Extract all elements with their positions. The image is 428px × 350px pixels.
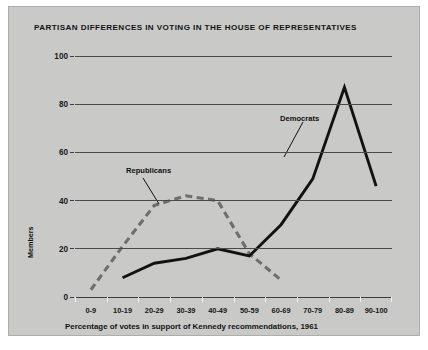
y-tick-label-0: 0 bbox=[63, 293, 68, 302]
y-tick-label-20: 20 bbox=[59, 244, 68, 253]
x-tick-mark-2 bbox=[138, 297, 139, 302]
x-axis-title: Percentage of votes in support of Kenned… bbox=[65, 322, 318, 331]
y-tick-mark-40 bbox=[70, 200, 74, 201]
gridline-80 bbox=[75, 104, 392, 105]
y-tick-mark-60 bbox=[70, 152, 74, 153]
x-tick-mark-3 bbox=[170, 297, 171, 302]
x-tick-label-30-39: 30-39 bbox=[176, 306, 195, 315]
x-tick-label-50-59: 50-59 bbox=[240, 306, 259, 315]
series-label-democrats: Democrats bbox=[280, 114, 319, 123]
x-tick-label-60-69: 60-69 bbox=[272, 306, 291, 315]
y-tick-mark-80 bbox=[70, 104, 74, 105]
gridline-60 bbox=[75, 152, 392, 153]
y-tick-label-60: 60 bbox=[59, 148, 68, 157]
x-tick-mark-4 bbox=[202, 297, 203, 302]
x-tick-mark-6 bbox=[265, 297, 266, 302]
chart-plate: PARTISAN DIFFERENCES IN VOTING IN THE HO… bbox=[8, 6, 420, 336]
y-tick-label-100: 100 bbox=[54, 52, 68, 61]
x-tick-label-20-29: 20-29 bbox=[145, 306, 164, 315]
y-tick-label-80: 80 bbox=[59, 100, 68, 109]
x-tick-mark-0 bbox=[75, 297, 76, 302]
series-lines bbox=[75, 56, 392, 297]
x-tick-label-10-19: 10-19 bbox=[113, 306, 132, 315]
y-tick-mark-100 bbox=[70, 56, 74, 57]
x-tick-label-90-100: 90-100 bbox=[365, 306, 388, 315]
x-tick-mark-end bbox=[391, 297, 392, 302]
y-tick-label-40: 40 bbox=[59, 196, 68, 205]
x-tick-mark-7 bbox=[297, 297, 298, 302]
x-tick-mark-1 bbox=[107, 297, 108, 302]
series-line-republicans bbox=[91, 196, 281, 290]
y-tick-mark-0 bbox=[70, 297, 74, 298]
gridline-20 bbox=[75, 248, 392, 249]
series-label-republicans: Republicans bbox=[126, 166, 171, 175]
gridline-40 bbox=[75, 200, 392, 201]
chart-title: PARTISAN DIFFERENCES IN VOTING IN THE HO… bbox=[34, 23, 357, 32]
plot-area: 0204060801000-910-1920-2930-3940-4950-59… bbox=[75, 56, 392, 297]
chart-figure: PARTISAN DIFFERENCES IN VOTING IN THE HO… bbox=[0, 0, 428, 350]
x-tick-label-80-89: 80-89 bbox=[335, 306, 354, 315]
y-tick-mark-20 bbox=[70, 248, 74, 249]
x-tick-label-70-79: 70-79 bbox=[303, 306, 322, 315]
gridline-100 bbox=[75, 56, 392, 57]
y-axis-title: Members bbox=[26, 226, 35, 258]
x-tick-mark-8 bbox=[329, 297, 330, 302]
x-tick-label-40-49: 40-49 bbox=[208, 306, 227, 315]
x-tick-label-0-9: 0-9 bbox=[86, 306, 97, 315]
x-tick-mark-9 bbox=[360, 297, 361, 302]
x-tick-mark-5 bbox=[234, 297, 235, 302]
